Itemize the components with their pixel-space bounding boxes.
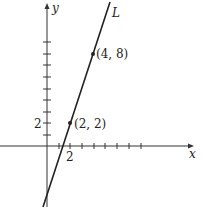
y-tick-label-2: 2 [34,117,42,131]
point-4-8 [91,52,95,56]
x-axis-label: x [189,147,196,161]
point-a-label: (2, 2) [74,117,106,131]
y-axis-label: y [51,1,59,15]
line-L [43,2,110,207]
point-b-label: (4, 8) [96,47,128,61]
line-graph: y x L (4, 8) (2, 2) 2 2 [0,0,203,207]
x-tick-label-2: 2 [66,150,74,164]
point-2-2 [68,121,72,125]
y-axis-arrow-icon [45,3,50,9]
line-label: L [111,6,120,20]
